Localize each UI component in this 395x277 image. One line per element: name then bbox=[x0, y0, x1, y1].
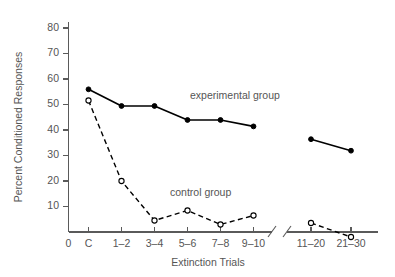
series-label-control-group: control group bbox=[170, 186, 231, 198]
y-tick-label-40: 40 bbox=[47, 123, 59, 135]
y-tick-label-30: 30 bbox=[47, 148, 59, 160]
x-tick-label-7-8: 7–8 bbox=[212, 237, 230, 249]
y-tick-label-80: 80 bbox=[47, 21, 59, 33]
y-tick-label-10: 10 bbox=[47, 199, 59, 211]
control-point-21-30 bbox=[348, 234, 353, 239]
y-tick-label-20: 20 bbox=[47, 174, 59, 186]
x-tick-label-3-4: 3–4 bbox=[146, 237, 164, 249]
y-axis-ticks bbox=[63, 28, 69, 207]
series-label-experimental-group: experimental group bbox=[190, 89, 280, 101]
y-tick-label-50: 50 bbox=[47, 97, 59, 109]
experimental-point-21-30 bbox=[349, 148, 354, 153]
control-point-3-4 bbox=[152, 218, 157, 223]
control-group-line-right bbox=[311, 223, 351, 237]
experimental-point-c bbox=[86, 87, 91, 92]
control-point-9-10 bbox=[251, 213, 256, 218]
control-point-7-8 bbox=[218, 222, 223, 227]
x-tick-label-0: 0 bbox=[66, 237, 72, 249]
control-point-5-6 bbox=[185, 208, 190, 213]
control-point-1-2 bbox=[119, 178, 124, 183]
control-group-line-left bbox=[89, 101, 254, 225]
x-tick-label-1-2: 1–2 bbox=[113, 237, 131, 249]
x-tick-label-9-10: 9–10 bbox=[242, 237, 266, 249]
experimental-point-3-4 bbox=[152, 104, 157, 109]
control-point-c bbox=[86, 98, 91, 103]
experimental-point-1-2 bbox=[119, 104, 124, 109]
experimental-point-7-8 bbox=[218, 118, 223, 123]
axis-break-icon bbox=[268, 226, 291, 237]
y-tick-label-70: 70 bbox=[47, 46, 59, 58]
x-tick-label-c: C bbox=[85, 237, 93, 249]
y-tick-label-60: 60 bbox=[47, 72, 59, 84]
y-axis-title: Percent Conditioned Responses bbox=[12, 52, 24, 203]
experimental-point-9-10 bbox=[251, 124, 256, 129]
experimental-point-5-6 bbox=[185, 118, 190, 123]
x-tick-label-11-20: 11–20 bbox=[297, 237, 326, 249]
x-tick-label-5-6: 5–6 bbox=[179, 237, 197, 249]
experimental-group-line-right bbox=[311, 139, 351, 151]
line-chart-svg: 80 70 60 50 40 30 20 10 Percent Conditio… bbox=[0, 0, 395, 277]
experimental-point-11-20 bbox=[309, 137, 314, 142]
x-axis-title: Extinction Trials bbox=[171, 256, 245, 268]
chart-container: 80 70 60 50 40 30 20 10 Percent Conditio… bbox=[0, 0, 395, 277]
control-point-11-20 bbox=[308, 220, 313, 225]
